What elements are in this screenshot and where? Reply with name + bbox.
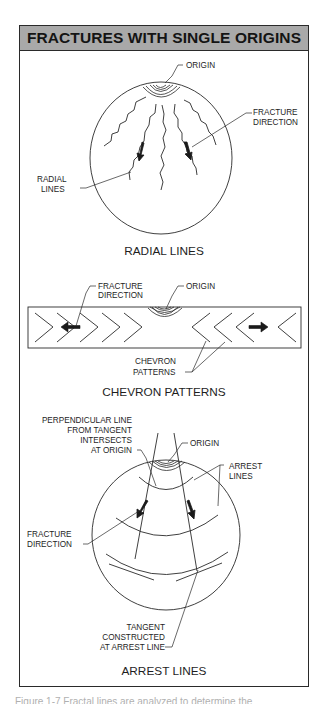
figure-caption: Figure 1-7 Fractal lines are analyzed to… bbox=[15, 695, 315, 704]
radial-crack-lines bbox=[104, 97, 216, 190]
chevron-panel-title: CHEVRON PATTERNS bbox=[102, 385, 226, 399]
radial-arrow-left-icon bbox=[137, 142, 144, 161]
radial-lines-label-2: LINES bbox=[41, 185, 65, 194]
chevron-patterns-leader bbox=[185, 341, 225, 372]
radial-origin-marks bbox=[143, 85, 180, 97]
chevron-origin-label: ORIGIN bbox=[186, 282, 215, 291]
arrest-lines-label-1: ARREST bbox=[229, 462, 262, 471]
tangent-label-3: AT ARREST LINE bbox=[100, 643, 166, 652]
radial-origin-leader bbox=[165, 65, 183, 83]
chevrons-left-group bbox=[35, 313, 142, 342]
radial-fracture-surface bbox=[90, 82, 232, 234]
tangent-label-1: TANGENT bbox=[126, 623, 165, 632]
tangent-right bbox=[176, 563, 222, 581]
arrest-origin-label: ORIGIN bbox=[190, 439, 219, 448]
arrest-lines-leader bbox=[194, 465, 224, 506]
arrest-direction-label-1: FRACTURE bbox=[27, 530, 72, 539]
perpendicular-leader bbox=[137, 450, 156, 486]
radial-panel-title: RADIAL LINES bbox=[124, 244, 204, 258]
radial-lines-panel bbox=[80, 65, 252, 234]
arrest-arrow-left-icon bbox=[137, 500, 148, 518]
perpendicular-label-4: AT ORIGIN bbox=[91, 446, 132, 455]
arrest-lines-panel bbox=[83, 433, 240, 647]
chevron-direction-label-2: DIRECTION bbox=[98, 291, 143, 300]
perpendicular-line-left bbox=[135, 433, 158, 559]
arrest-arc-1 bbox=[139, 477, 193, 490]
chevrons-right-group bbox=[192, 313, 296, 342]
perpendicular-label-3: INTERSECTS bbox=[80, 436, 132, 445]
chevron-direction-leader bbox=[76, 286, 96, 326]
arrest-direction-label-2: DIRECTION bbox=[27, 540, 72, 549]
radial-arrow-right-icon bbox=[184, 142, 192, 160]
radial-lines-leader bbox=[80, 172, 131, 188]
radial-direction-label-1: FRACTURE bbox=[253, 108, 298, 117]
radial-lines-label-1: RADIAL bbox=[37, 175, 67, 184]
tangent-left bbox=[109, 564, 154, 580]
perpendicular-line-right bbox=[174, 433, 197, 571]
chevron-labels: FRACTURE DIRECTION ORIGIN CHEVRON PATTER… bbox=[98, 282, 226, 399]
radial-direction-label-2: DIRECTION bbox=[253, 118, 298, 127]
chevron-patterns-label-2: PATTERNS bbox=[133, 368, 176, 377]
radial-origin-label: ORIGIN bbox=[186, 61, 215, 70]
arrest-fracture-surface bbox=[92, 460, 240, 610]
fracture-diagram: ORIGIN FRACTURE DIRECTION RADIAL LINES R… bbox=[0, 0, 324, 704]
chevron-arrow-right-icon bbox=[249, 322, 268, 332]
arrest-lines-label-2: LINES bbox=[229, 472, 253, 481]
perpendicular-label-2: FROM TANGENT bbox=[67, 426, 132, 435]
chevron-origin-leader bbox=[166, 286, 184, 309]
tangent-label-2: CONSTRUCTED bbox=[102, 633, 165, 642]
arrest-panel-title: ARREST LINES bbox=[121, 664, 206, 678]
radial-labels: ORIGIN FRACTURE DIRECTION RADIAL LINES R… bbox=[37, 61, 298, 258]
arrest-arc-3 bbox=[106, 552, 228, 575]
arrest-arc-2 bbox=[116, 515, 218, 536]
perpendicular-label-1: PERPENDICULAR LINE bbox=[42, 416, 133, 425]
chevron-direction-label-1: FRACTURE bbox=[98, 282, 143, 291]
chevron-patterns-label-1: CHEVRON bbox=[135, 357, 176, 366]
chevron-origin-marks bbox=[148, 307, 182, 317]
